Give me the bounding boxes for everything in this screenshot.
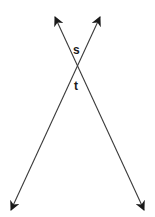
line-2 bbox=[11, 17, 100, 210]
intersecting-lines-diagram: s t bbox=[0, 0, 155, 217]
angle-label-t: t bbox=[74, 79, 78, 93]
angle-label-s: s bbox=[73, 43, 80, 57]
line-1 bbox=[55, 17, 144, 210]
